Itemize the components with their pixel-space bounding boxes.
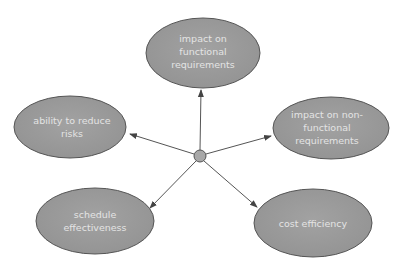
node-label: risks bbox=[61, 128, 83, 139]
connector-top bbox=[200, 90, 201, 150]
node-impact-functional: impact on functional requirements bbox=[146, 18, 260, 88]
node-label: impact on bbox=[179, 33, 227, 44]
node-label: impact on non- bbox=[291, 109, 363, 120]
node-label: functional bbox=[303, 122, 350, 133]
hub-node bbox=[194, 150, 206, 162]
node-label: requirements bbox=[295, 135, 359, 146]
node-reduce-risks: ability to reduce risks bbox=[14, 96, 126, 158]
node-label: ability to reduce bbox=[33, 115, 111, 126]
node-label: functional bbox=[179, 46, 226, 57]
hub-spoke-diagram: impact on functional requirements abilit… bbox=[0, 0, 403, 267]
connectors bbox=[130, 90, 271, 208]
node-label: cost efficiency bbox=[279, 218, 348, 229]
node-impact-nonfunctional: impact on non- functional requirements bbox=[273, 97, 389, 159]
connector-right bbox=[206, 136, 271, 154]
node-cost-efficiency: cost efficiency bbox=[254, 189, 372, 257]
node-schedule-effectiveness: schedule effectiveness bbox=[36, 188, 154, 254]
connector-bottom-right bbox=[204, 161, 257, 207]
node-label: effectiveness bbox=[63, 222, 126, 233]
connector-bottom-left bbox=[150, 161, 196, 208]
connector-left bbox=[130, 134, 194, 154]
node-label: requirements bbox=[171, 59, 235, 70]
node-label: schedule bbox=[74, 209, 117, 220]
